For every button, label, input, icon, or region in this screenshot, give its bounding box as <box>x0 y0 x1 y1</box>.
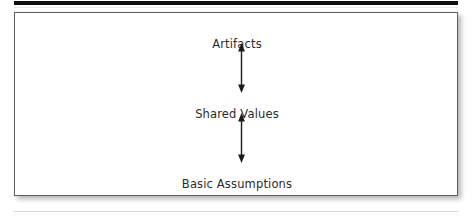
double-arrow-artifacts-shared-values <box>234 43 249 93</box>
figure-frame: Artifacts Shared Values Basic Assumption… <box>14 12 458 196</box>
page-top-hairline <box>14 7 458 8</box>
page-top-rule <box>14 1 458 5</box>
double-headed-arrow-icon <box>234 113 249 163</box>
double-headed-arrow-icon <box>234 43 249 93</box>
culture-levels-diagram: Artifacts Shared Values Basic Assumption… <box>15 13 459 197</box>
diagram-node-basic-assumptions: Basic Assumptions <box>15 177 459 191</box>
page-bottom-rule <box>14 211 458 212</box>
double-arrow-shared-values-basic-assumptions <box>234 113 249 163</box>
